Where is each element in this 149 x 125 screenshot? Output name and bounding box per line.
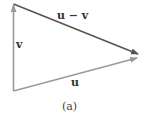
caption: (a) — [62, 100, 77, 113]
label-u: u — [71, 76, 79, 89]
vector-diagram: u − v v u (a) — [0, 0, 149, 125]
label-u-minus-v: u − v — [57, 9, 89, 22]
label-v: v — [15, 38, 23, 51]
